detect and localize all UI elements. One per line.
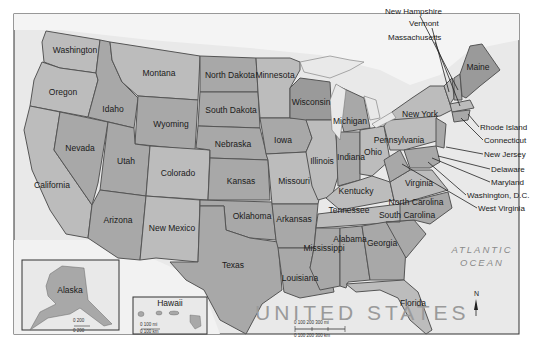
label-washington-dc: Washington, D.C.: [467, 191, 529, 200]
alaska-scale-top: 0 200: [73, 318, 85, 323]
us-map: Washington Oregon California Nevada Idah…: [0, 0, 533, 354]
label-oregon: Oregon: [49, 87, 78, 97]
hawaii-maui: [169, 311, 179, 315]
label-new-hampshire: New Hampshire: [385, 7, 442, 16]
label-nevada: Nevada: [65, 143, 95, 153]
label-nebraska: Nebraska: [215, 139, 252, 149]
label-rhode-island: Rhode Island: [480, 123, 527, 132]
label-new-mexico: New Mexico: [149, 223, 196, 233]
label-maryland: Maryland: [491, 178, 524, 187]
label-oklahoma: Oklahoma: [233, 211, 272, 221]
label-delaware: Delaware: [491, 165, 525, 174]
label-alabama: Alabama: [333, 234, 367, 244]
label-ohio: Ohio: [364, 147, 382, 157]
state-connecticut-ri[interactable]: [452, 110, 470, 122]
label-maine: Maine: [466, 62, 489, 72]
label-vermont: Vermont: [409, 19, 440, 28]
label-pennsylvania: Pennsylvania: [374, 135, 425, 145]
hawaii-scale-top: 0 100 mi: [140, 322, 157, 327]
label-kentucky: Kentucky: [339, 186, 375, 196]
hawaii-oahu: [156, 311, 162, 315]
label-idaho: Idaho: [102, 104, 124, 114]
label-alaska: Alaska: [57, 285, 83, 295]
label-illinois: Illinois: [310, 156, 334, 166]
label-texas: Texas: [222, 260, 244, 270]
country-title: UNITED STATES: [255, 301, 470, 324]
scale-km: 0 100 200 300 km: [294, 333, 330, 338]
label-utah: Utah: [117, 156, 135, 166]
label-louisiana: Louisiana: [282, 273, 319, 283]
label-massachusetts: Massachusetts: [388, 33, 441, 42]
label-arkansas: Arkansas: [276, 214, 311, 224]
label-new-jersey: New Jersey: [484, 150, 526, 159]
hawaii-scale-bottom: 0 100 km: [140, 329, 159, 334]
alaska-scale-bottom: 0 200: [73, 328, 85, 333]
label-south-dakota: South Dakota: [205, 105, 257, 115]
hawaii-inset: Hawaii 0 100 mi 0 100 km: [133, 297, 207, 334]
label-minnesota: Minnesota: [255, 70, 294, 80]
label-wisconsin: Wisconsin: [292, 97, 331, 107]
label-montana: Montana: [142, 68, 175, 78]
label-hawaii: Hawaii: [157, 298, 183, 308]
ocean-label-line2: OCEAN: [460, 257, 504, 268]
state-maryland-delaware[interactable]: [404, 146, 440, 168]
north-label: N: [474, 290, 479, 297]
label-michigan: Michigan: [333, 116, 367, 126]
label-colorado: Colorado: [161, 168, 196, 178]
label-wyoming: Wyoming: [153, 119, 189, 129]
label-missouri: Missouri: [278, 176, 310, 186]
label-iowa: Iowa: [274, 135, 292, 145]
hawaii-kauai: [138, 312, 144, 317]
label-california: California: [34, 180, 70, 190]
label-north-carolina: North Carolina: [389, 197, 444, 207]
state-arkansas[interactable]: [272, 204, 318, 248]
label-mississippi: Mississippi: [303, 243, 344, 253]
label-indiana: Indiana: [337, 152, 365, 162]
scale-miles: 0 100 200 300 mi: [294, 320, 329, 325]
label-connecticut: Connecticut: [484, 136, 527, 145]
ocean-label-line1: ATLANTIC: [450, 244, 512, 255]
label-washington: Washington: [53, 45, 98, 55]
label-tennessee: Tennessee: [328, 205, 369, 215]
label-new-york: New York: [402, 109, 439, 119]
label-kansas: Kansas: [227, 176, 255, 186]
label-west-virginia: West Virginia: [478, 204, 525, 213]
label-south-carolina: South Carolina: [379, 210, 436, 220]
label-north-dakota: North Dakota: [205, 70, 255, 80]
label-arizona: Arizona: [104, 215, 133, 225]
label-georgia: Georgia: [367, 238, 398, 248]
alaska-inset: Alaska 0 200 0 200: [22, 260, 119, 333]
